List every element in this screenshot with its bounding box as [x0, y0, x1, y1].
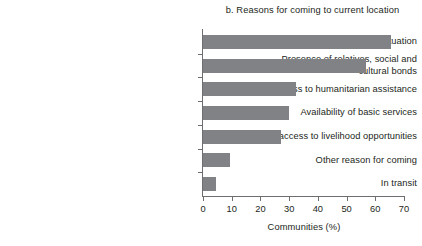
x-axis-tick-label: 30 [274, 203, 304, 215]
x-axis-tick-label: 0 [188, 203, 218, 215]
x-axis-tick [232, 197, 233, 201]
x-axis-tick [203, 197, 204, 201]
x-axis-tick [318, 197, 319, 201]
x-axis-tick-label: 40 [303, 203, 333, 215]
bar-row [203, 35, 404, 49]
x-axis-tick [260, 197, 261, 201]
bar-row [203, 130, 404, 144]
x-axis-title: Communities (%) [203, 221, 405, 233]
x-axis-tick-label: 50 [332, 203, 362, 215]
bar-row [203, 153, 404, 167]
x-axis-tick-label: 70 [389, 203, 419, 215]
x-axis-tick [289, 197, 290, 201]
bar[interactable] [203, 130, 281, 144]
x-axis-tick [375, 197, 376, 201]
bar[interactable] [203, 35, 391, 49]
bar[interactable] [203, 153, 230, 167]
bar-row [203, 106, 404, 120]
plot-area [203, 30, 404, 196]
x-axis-tick-label: 60 [360, 203, 390, 215]
chart-title: b. Reasons for coming to current locatio… [203, 4, 422, 16]
bar-row [203, 59, 404, 73]
bar[interactable] [203, 82, 296, 96]
bar[interactable] [203, 177, 216, 191]
x-axis-tick [404, 197, 405, 201]
bar-chart-figure: b. Reasons for coming to current locatio… [0, 0, 422, 246]
bar[interactable] [203, 106, 289, 120]
x-axis-tick-label: 10 [217, 203, 247, 215]
bar-row [203, 177, 404, 191]
bar[interactable] [203, 59, 366, 73]
bar-row [203, 82, 404, 96]
x-axis-tick-label: 20 [245, 203, 275, 215]
x-axis-tick [347, 197, 348, 201]
